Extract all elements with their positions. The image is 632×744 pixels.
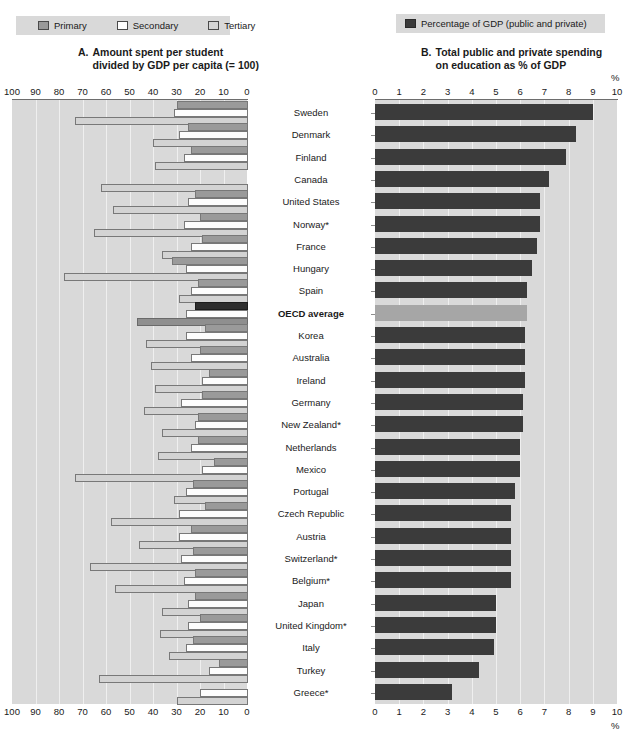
legend-panel-a: PrimarySecondaryTertiary	[16, 16, 230, 35]
panel-b-title-line2: on education as % of GDP	[436, 59, 567, 71]
row-tick-mark	[371, 202, 375, 203]
bar-gdp-percentage	[375, 171, 549, 187]
bar-gdp-percentage	[375, 216, 540, 232]
axis-tick-label: 7	[542, 86, 547, 97]
row-tick-mark	[371, 291, 375, 292]
bar-secondary	[188, 622, 248, 630]
row-tick-mark	[371, 626, 375, 627]
bar-primary	[200, 213, 248, 221]
row-tick-mark	[371, 158, 375, 159]
panel-b-title: B.Total public and private spendingon ed…	[421, 46, 621, 72]
axis-tick-label: 6	[518, 86, 523, 97]
axis-tick-label: 9	[590, 86, 595, 97]
row-tick-mark	[371, 425, 375, 426]
bar-gdp-percentage	[375, 104, 593, 120]
legend-panel-b: Percentage of GDP (public and private)	[396, 14, 605, 33]
bar-primary	[193, 480, 248, 488]
axis-tick-label: 60	[101, 706, 112, 717]
bar-gdp-percentage	[375, 617, 496, 633]
row-tick-mark	[371, 336, 375, 337]
bar-primary	[191, 525, 248, 533]
axis-tick-label: 10	[612, 86, 623, 97]
bar-primary	[191, 146, 248, 154]
bar-secondary	[184, 577, 248, 585]
bar-gdp-percentage	[375, 528, 511, 544]
bar-secondary	[186, 310, 248, 318]
bar-primary	[202, 235, 248, 243]
row-tick-mark	[371, 225, 375, 226]
bar-secondary	[179, 510, 248, 518]
bar-gdp-percentage	[375, 305, 527, 321]
country-label-ireland: Ireland	[250, 375, 372, 386]
axis-tick-label: 5	[493, 86, 498, 97]
panel-a-axis-bottom: 1009080706050403020100	[0, 706, 262, 718]
bar-gdp-percentage	[375, 550, 511, 566]
bar-primary	[195, 569, 248, 577]
bar-secondary	[184, 154, 248, 162]
row-tick-mark	[371, 470, 375, 471]
row-tick-mark	[371, 604, 375, 605]
panel-b-unit-label-top: %	[611, 72, 619, 83]
row-tick-mark	[371, 581, 375, 582]
axis-tick-label: 40	[148, 706, 159, 717]
axis-tick-label: 4	[469, 86, 474, 97]
country-label-germany: Germany	[250, 397, 372, 408]
legend-item-percentage: Percentage of GDP (public and private)	[405, 18, 587, 29]
axis-tick-label: 20	[195, 86, 206, 97]
country-label-belgium: Belgium*	[250, 575, 372, 586]
row-tick-mark	[371, 537, 375, 538]
axis-tick-label: 0	[244, 706, 249, 717]
panel-a-axis-top: 1009080706050403020100	[0, 86, 262, 98]
axis-tick-label: 60	[101, 86, 112, 97]
bar-gdp-percentage	[375, 238, 537, 254]
bar-secondary	[191, 243, 248, 251]
axis-tick-label: 100	[4, 706, 20, 717]
country-label-france: France	[250, 241, 372, 252]
axis-tick-label: 2	[421, 706, 426, 717]
axis-tick-label: 10	[218, 706, 229, 717]
bar-gdp-percentage	[375, 483, 515, 499]
country-label-greece: Greece*	[250, 687, 372, 698]
bar-gdp-percentage	[375, 282, 527, 298]
bar-primary	[177, 101, 249, 109]
country-label-australia: Australia	[250, 352, 372, 363]
axis-tick-label: 90	[30, 706, 41, 717]
bar-primary	[198, 279, 248, 287]
row-tick-mark	[371, 559, 375, 560]
bar-secondary	[191, 287, 248, 295]
panel-a-letter: A.	[78, 46, 89, 58]
bar-secondary	[191, 354, 248, 362]
bar-secondary	[191, 444, 248, 452]
panel-a-title-line1: Amount spent per student	[93, 46, 224, 58]
bar-gdp-percentage	[375, 505, 511, 521]
panel-b-axis-top: 012345678910	[365, 86, 632, 98]
axis-tick-label: 80	[54, 706, 65, 717]
axis-tick-label: 90	[30, 86, 41, 97]
row-tick-mark	[371, 381, 375, 382]
square-swatch-gdp	[405, 19, 416, 28]
axis-tick-label: 1	[397, 86, 402, 97]
panel-b-unit-label-bottom: %	[611, 720, 619, 731]
bar-secondary	[188, 600, 248, 608]
bar-primary	[202, 391, 248, 399]
row-tick-mark	[371, 403, 375, 404]
bar-secondary	[181, 555, 248, 563]
bar-secondary	[209, 667, 248, 675]
axis-tick-label: 3	[445, 86, 450, 97]
legend-item-primary: Primary	[38, 20, 87, 31]
row-tick-mark	[371, 113, 375, 114]
axis-tick-label: 8	[566, 706, 571, 717]
axis-tick-label: 10	[612, 706, 623, 717]
axis-tick-label: 6	[518, 706, 523, 717]
axis-tick-label: 0	[372, 706, 377, 717]
row-tick-mark	[371, 514, 375, 515]
country-label-portugal: Portugal	[250, 486, 372, 497]
country-label-denmark: Denmark	[250, 129, 372, 140]
bar-gdp-percentage	[375, 149, 566, 165]
square-swatch-tertiary	[208, 21, 219, 30]
legend-label: Secondary	[133, 20, 178, 31]
bar-primary	[205, 324, 248, 332]
bar-secondary	[179, 533, 248, 541]
legend-label: Primary	[54, 20, 87, 31]
country-label-spain: Spain	[250, 285, 372, 296]
